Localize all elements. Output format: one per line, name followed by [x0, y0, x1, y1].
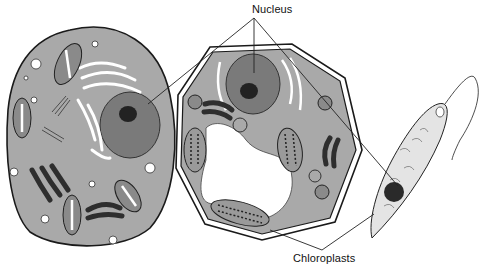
- euglena-nucleus: [384, 182, 404, 202]
- flagellum: [445, 76, 478, 160]
- cell-diagram: [0, 0, 486, 266]
- euglena-cell: [371, 76, 478, 238]
- animal-cell: [7, 27, 175, 246]
- chloroplasts-label: Chloroplasts: [293, 252, 355, 264]
- animal-nucleolus: [119, 106, 137, 122]
- nucleus-label: Nucleus: [252, 3, 292, 15]
- plant-nucleolus: [240, 83, 258, 99]
- plant-cell: [176, 44, 362, 240]
